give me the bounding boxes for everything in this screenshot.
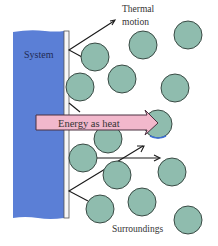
molecule	[108, 65, 136, 93]
molecule	[158, 158, 186, 186]
heat-transfer-diagram: System	[0, 0, 218, 246]
molecule	[161, 74, 189, 102]
molecule	[174, 21, 202, 49]
molecule	[81, 43, 109, 71]
molecule	[66, 73, 94, 101]
thermal-motion-path-mid	[69, 103, 80, 112]
system-label: System	[24, 49, 54, 60]
molecule	[128, 188, 156, 216]
molecule	[86, 195, 114, 223]
molecule	[103, 161, 131, 189]
molecule	[69, 144, 97, 172]
molecule	[129, 31, 157, 59]
surroundings-label: Surroundings	[112, 224, 164, 234]
molecule	[174, 206, 202, 234]
energy-arrow-label: Energy as heat	[58, 118, 120, 129]
thermal-motion-label-line1: Thermal	[122, 4, 155, 14]
thermal-motion-label-line2: motion	[122, 17, 149, 27]
